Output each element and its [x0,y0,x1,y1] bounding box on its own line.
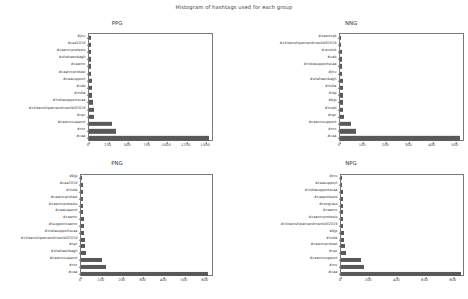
x-tick-mark [89,142,90,144]
bar [341,258,361,262]
figure-suptitle: Histogram of hashtags used for each grou… [0,4,468,10]
y-axis-label: #caanrcsupport [57,121,85,125]
y-axis-label: #caanrcsupport [309,257,337,261]
x-axis-tick-label: 1250 [181,143,190,147]
y-axis-label: #caaprotests [314,196,337,200]
y-axis-label: #india [66,189,77,193]
y-axis-label: #caasupport [63,78,86,82]
bar [341,183,342,187]
chart-panel-npg: NPG#jnu#caasupport#indiasupportscaa#caap… [234,160,468,295]
bar [81,204,83,208]
y-axis-label: #caanrcprotest [310,244,337,248]
bar [340,115,344,119]
bar [341,238,344,242]
y-axis-label: #citizenshipamendmentbill2019 [29,107,86,111]
x-axis-tick-label: 100 [359,143,366,147]
y-axis-label: #jnu [329,176,337,180]
x-axis-tick-label: 800 [449,278,456,282]
x-axis-tick-label: 500 [124,143,131,147]
bar [341,217,343,221]
bar [340,71,342,75]
x-tick-mark [386,142,387,144]
y-axis-label: #caa2019 [59,182,77,186]
bar [341,210,343,214]
y-axis-label: #bjp [328,100,336,104]
bar [340,122,351,126]
y-axis-label: #npr [329,250,338,254]
x-tick-mark [164,277,165,279]
y-axis-label: #shaheenbagh [59,56,86,60]
y-axis-label: #nrc [69,264,77,268]
bar [341,265,364,269]
y-axis-label: #caanrcsupport [49,257,77,261]
bar [340,107,343,111]
y-axis-label: #caa [328,271,337,275]
bar [89,93,92,97]
x-axis-tick-label: 1500 [201,143,210,147]
y-axis-label: #jnu [328,71,336,75]
y-axis-label: #indiasupportscaa [45,230,78,234]
x-axis-tick-label: 100 [97,278,104,282]
bar [340,86,343,90]
y-axis-label: #caanrcprotests [309,216,338,220]
x-tick-mark [206,142,207,144]
bar [81,265,106,269]
bar [340,79,343,83]
bar [340,129,356,133]
y-axis-label: #nrc [329,264,337,268]
x-tick-mark [167,142,168,144]
y-axis-label: #caanrcprotests [57,49,86,53]
figure-canvas: Histogram of hashtags used for each grou… [0,0,468,299]
x-axis-tick-label: 500 [180,278,187,282]
bar [341,224,343,228]
x-axis-tick-label: 0 [338,143,340,147]
x-tick-mark [185,277,186,279]
x-tick-mark [341,277,342,279]
y-axis-label: #congress [319,203,338,207]
y-axis-label: #jnu [77,35,85,39]
y-axis-label: #bjp [69,176,77,180]
bar [341,244,345,248]
y-axis-label: #indiasupportscaa [305,189,338,193]
bar [340,93,343,97]
bar [340,100,343,104]
y-axis-label: #caanrcprotest [58,71,85,75]
y-axis-label: #isp [329,92,337,96]
x-tick-mark [108,142,109,144]
y-axis-label: #caanrc [71,64,86,68]
y-axis-label: #nrc [77,128,85,132]
bar [340,35,341,39]
bar [81,272,208,276]
plot-area-npg [340,174,464,276]
bar [81,210,83,214]
x-tick-mark [340,142,341,144]
bar [89,136,209,140]
y-axis-label: #citizenshipamendmentbill2019 [281,223,338,227]
x-tick-mark [101,277,102,279]
y-axis-label: #caasupport [55,210,78,214]
y-axis-label: #caanrcsupport [308,121,336,125]
panel-title-nng: NNG [234,20,468,26]
y-axis-label: #caa [68,271,77,275]
bar [89,79,92,83]
panel-title-npg: NPG [234,160,468,166]
bar [341,272,461,276]
y-axis-label: #shaheenbagh [51,250,78,254]
x-tick-mark [128,142,129,144]
bar [341,204,343,208]
x-axis-tick-label: 600 [421,278,428,282]
y-axis-label: #caanrcprotests [49,203,78,207]
panel-title-ppg: PPG [0,20,234,26]
bar [89,71,91,75]
bar [89,86,92,90]
bar [341,231,344,235]
y-axis-label: #caa [76,136,85,140]
y-axis-label: #india [326,237,337,241]
y-axis-label: #india [74,92,85,96]
bar [89,57,91,61]
y-axis-label: #citizenshipamendmentbill2019 [21,237,78,241]
y-axis-label: #caanrc [323,210,338,214]
plot-area-nng [339,33,464,141]
x-tick-mark [455,142,456,144]
bar [89,64,91,68]
